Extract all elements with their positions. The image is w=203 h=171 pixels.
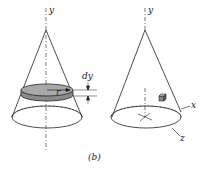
radius-label: r bbox=[56, 87, 61, 97]
cube-element bbox=[159, 94, 166, 101]
dy-label: dy bbox=[82, 71, 94, 81]
x-axis-label: x bbox=[191, 100, 196, 110]
cone-diagram: y r dy y x z (b) bbox=[0, 0, 203, 171]
z-axis-label: z bbox=[179, 133, 185, 143]
y-axis-label: y bbox=[48, 5, 55, 15]
figure-caption: (b) bbox=[88, 152, 101, 162]
right-y-axis-label: y bbox=[147, 5, 154, 15]
right-cone bbox=[111, 8, 190, 136]
